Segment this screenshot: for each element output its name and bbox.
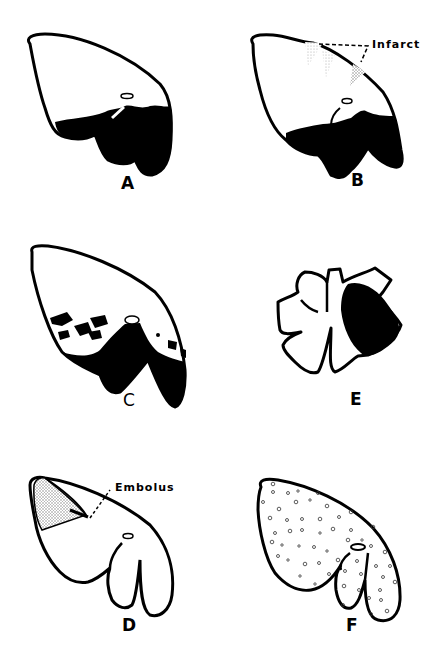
panel-label-c: C bbox=[123, 392, 135, 409]
panel-a: A bbox=[0, 0, 223, 220]
lung-diagram-c bbox=[0, 220, 223, 430]
panel-label-b: B bbox=[351, 172, 364, 189]
panel-label-d: D bbox=[122, 617, 136, 634]
lung-diagram-d bbox=[0, 430, 223, 647]
panel-label-a: A bbox=[121, 175, 134, 192]
panel-c: C bbox=[0, 220, 223, 430]
panel-label-e: E bbox=[350, 391, 362, 408]
infarct-callout: Infarct bbox=[372, 39, 420, 50]
panel-b: Infarct B bbox=[223, 0, 446, 220]
lung-diagram-a bbox=[0, 0, 223, 220]
hilum-icon bbox=[125, 316, 139, 324]
panel-f: F bbox=[223, 430, 446, 647]
lung-diagram-f bbox=[223, 430, 446, 647]
lung-diagram-b bbox=[223, 0, 446, 220]
lung-diagram-e bbox=[223, 220, 446, 430]
embolus-callout: Embolus bbox=[115, 482, 175, 493]
panel-e: E bbox=[223, 220, 446, 430]
panel-label-f: F bbox=[346, 617, 358, 634]
panel-d: Embolus D bbox=[0, 430, 223, 647]
